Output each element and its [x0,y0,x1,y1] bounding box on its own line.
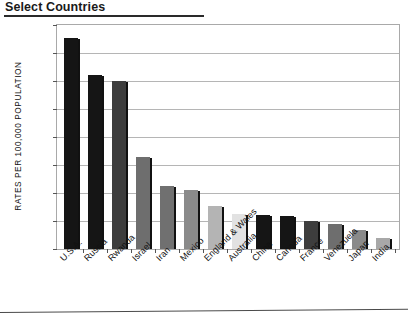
title-underline [4,15,204,17]
bar-shadow-cap [366,231,368,234]
page-title: Select Countries [4,0,204,15]
bar-chart: Select Countries RATES PER 100,000 POPUL… [0,0,408,325]
bar-rect [136,157,151,249]
bar-shadow-edge [78,41,80,249]
bar-rect [160,186,175,249]
bar-shadow-cap [342,225,344,228]
bar-shadow-cap [126,82,128,85]
bar-rect [88,75,103,249]
y-axis-title: RATES PER 100,000 POPULATION [13,26,25,246]
bar-shadow-cap [294,217,296,220]
bar-shadow-edge [102,78,104,249]
bar-shadow-cap [102,76,104,79]
bar-shadow-cap [318,222,320,225]
bar-shadow-edge [126,84,128,249]
bar-series [57,25,399,249]
bar-shadow-cap [174,187,176,190]
bar-shadow-edge [150,160,152,249]
bar [160,186,175,249]
plot-area: 8007006005004003002001000 [56,24,400,250]
bar [88,75,103,249]
bar-shadow-cap [390,239,392,242]
bar [136,157,151,249]
bar-shadow-cap [222,207,224,210]
bar-shadow-cap [270,216,272,219]
chart-title-block: Select Countries [4,0,204,20]
bar-shadow-cap [198,191,200,194]
bar-shadow-cap [150,158,152,161]
bar-rect [64,38,79,249]
bar-shadow-edge [174,189,176,249]
bar-rect [112,81,127,249]
bar [64,38,79,249]
x-axis-labels: U.S.A.RussiaRwandaIsraelIranMexicoEnglan… [0,250,408,312]
bar-shadow-cap [78,39,80,42]
bar [112,81,127,249]
